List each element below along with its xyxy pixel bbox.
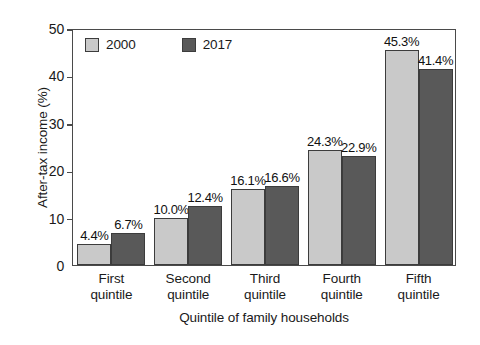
bar-group: 16.1%16.6%Thirdquintile bbox=[227, 30, 304, 265]
bar-value-label: 41.4% bbox=[418, 53, 453, 68]
bar[interactable]: 6.7% bbox=[111, 233, 145, 265]
bar-value-label: 22.9% bbox=[341, 140, 376, 155]
bar[interactable]: 16.1% bbox=[231, 189, 265, 265]
bar-value-label: 4.4% bbox=[80, 228, 108, 243]
bar[interactable]: 16.6% bbox=[265, 186, 299, 265]
bar-value-label: 16.1% bbox=[230, 173, 265, 188]
x-axis-title: Quintile of family households bbox=[72, 310, 456, 325]
y-tick-label: 30 bbox=[49, 116, 64, 132]
bar-value-label: 6.7% bbox=[114, 217, 142, 232]
x-axis-category-label: Fifthquintile bbox=[380, 271, 457, 302]
y-tick-label: 40 bbox=[49, 68, 64, 84]
bar-group: 10.0%12.4%Secondquintile bbox=[150, 30, 227, 265]
x-axis-category-line: quintile bbox=[303, 287, 380, 303]
bar[interactable]: 24.3% bbox=[308, 150, 342, 265]
x-axis-category-label: Secondquintile bbox=[150, 271, 227, 302]
x-axis-category-line: quintile bbox=[380, 287, 457, 303]
x-axis-category-line: Third bbox=[227, 271, 304, 287]
x-axis-category-line: Second bbox=[150, 271, 227, 287]
bar-value-label: 24.3% bbox=[307, 134, 342, 149]
y-tick-label: 0 bbox=[56, 258, 64, 274]
bar-group: 45.3%41.4%Fifthquintile bbox=[380, 30, 457, 265]
x-axis-category-line: quintile bbox=[73, 287, 150, 303]
x-axis-category-label: Thirdquintile bbox=[227, 271, 304, 302]
bar[interactable]: 45.3% bbox=[385, 50, 419, 265]
bar[interactable]: 4.4% bbox=[77, 244, 111, 265]
bar[interactable]: 12.4% bbox=[188, 206, 222, 265]
bar[interactable]: 22.9% bbox=[342, 156, 376, 265]
bar[interactable]: 41.4% bbox=[419, 69, 453, 265]
y-axis-title: After-tax income (%) bbox=[35, 28, 50, 268]
bar-value-label: 16.6% bbox=[264, 170, 299, 185]
x-axis-category-line: quintile bbox=[150, 287, 227, 303]
plot-area: 01020304050 20002017 4.4%6.7%Firstquinti… bbox=[72, 29, 456, 266]
bar-group: 24.3%22.9%Fourthquintile bbox=[303, 30, 380, 265]
y-tick-label: 50 bbox=[49, 21, 64, 37]
bar-chart-figure: After-tax income (%) 01020304050 2000201… bbox=[0, 0, 480, 345]
x-axis-category-label: Fourthquintile bbox=[303, 271, 380, 302]
x-axis-category-line: First bbox=[73, 271, 150, 287]
y-tick-label: 20 bbox=[49, 163, 64, 179]
x-axis-category-line: Fifth bbox=[380, 271, 457, 287]
bar-group: 4.4%6.7%Firstquintile bbox=[73, 30, 150, 265]
bar-value-label: 45.3% bbox=[384, 34, 419, 49]
bar-value-label: 12.4% bbox=[188, 190, 223, 205]
bar-value-label: 10.0% bbox=[154, 202, 189, 217]
bar[interactable]: 10.0% bbox=[154, 218, 188, 265]
x-axis-category-line: Fourth bbox=[303, 271, 380, 287]
x-axis-category-line: quintile bbox=[227, 287, 304, 303]
y-tick-label: 10 bbox=[49, 211, 64, 227]
x-axis-category-label: Firstquintile bbox=[73, 271, 150, 302]
